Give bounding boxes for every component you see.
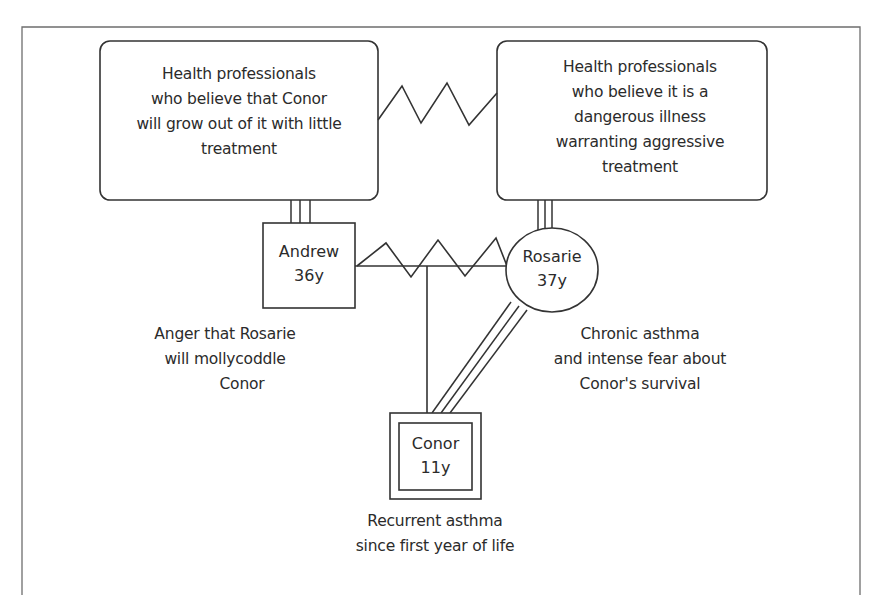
text-line: dangerous illness	[510, 105, 770, 130]
text-line: Conor's survival	[540, 372, 740, 397]
andrew-annotation: Anger that Rosarie will mollycoddle Cono…	[140, 322, 310, 397]
rosarie-annotation: Chronic asthma and intense fear about Co…	[540, 322, 740, 397]
conor-age: 11y	[399, 456, 472, 480]
rosarie-name: Rosarie	[506, 245, 598, 269]
text-line: since first year of life	[335, 534, 535, 559]
conor-name: Conor	[399, 432, 472, 456]
text-line: Chronic asthma	[540, 322, 740, 347]
text-line: will mollycoddle	[140, 347, 310, 372]
professionals-left-text: Health professionals who believe that Co…	[100, 62, 378, 162]
text-line: who believe that Conor	[100, 87, 378, 112]
text-line: Health professionals	[510, 55, 770, 80]
text-line: will grow out of it with little	[100, 112, 378, 137]
professionals-right-text: Health professionals who believe it is a…	[510, 55, 770, 180]
andrew-age: 36y	[263, 264, 355, 288]
conor-annotation: Recurrent asthma since first year of lif…	[335, 509, 535, 559]
text-line: who believe it is a	[510, 80, 770, 105]
text-line: Recurrent asthma	[335, 509, 535, 534]
close-relation-lines-rosarie-conor	[432, 302, 527, 413]
text-line: treatment	[510, 155, 770, 180]
close-relation-lines-rosarie	[538, 200, 552, 230]
rosarie-label: Rosarie 37y	[506, 245, 598, 293]
andrew-name: Andrew	[263, 240, 355, 264]
conflict-zigzag-marriage	[357, 238, 507, 277]
text-line: and intense fear about	[540, 347, 740, 372]
rosarie-age: 37y	[506, 269, 598, 293]
conflict-zigzag-professionals	[378, 83, 497, 125]
andrew-label: Andrew 36y	[263, 240, 355, 288]
text-line: Anger that Rosarie	[140, 322, 310, 347]
text-line: Health professionals	[100, 62, 378, 87]
close-relation-lines-andrew	[291, 200, 310, 223]
text-line: Conor	[140, 372, 310, 397]
text-line: treatment	[100, 137, 378, 162]
conor-label: Conor 11y	[399, 432, 472, 480]
text-line: warranting aggressive	[510, 130, 770, 155]
